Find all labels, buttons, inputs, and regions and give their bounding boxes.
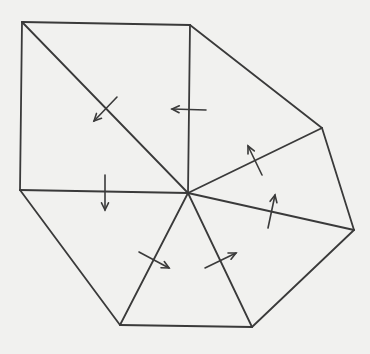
triangulated-polygon-diagram bbox=[0, 0, 370, 354]
left-edge bbox=[20, 22, 22, 190]
spoke-left bbox=[20, 190, 188, 193]
arrow-up-right-icon bbox=[205, 253, 236, 268]
bottom-edge bbox=[120, 325, 252, 327]
spoke-top-left bbox=[22, 22, 188, 193]
right-edge bbox=[322, 128, 354, 230]
spoke-lower-left bbox=[120, 193, 188, 325]
arrow-down-right-icon bbox=[139, 252, 169, 268]
upper-right-edge bbox=[190, 25, 322, 128]
lower-right-edge bbox=[252, 230, 354, 327]
arrow-down-icon bbox=[102, 175, 109, 210]
flow-arrows bbox=[94, 97, 277, 268]
polygon-edges bbox=[20, 22, 354, 327]
top-edge bbox=[22, 22, 190, 25]
arrow-up-left-icon bbox=[248, 146, 262, 175]
